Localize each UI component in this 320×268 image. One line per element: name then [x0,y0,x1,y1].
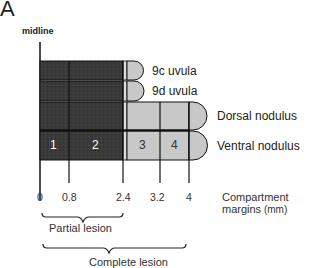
axis-title-unit: (mm) [264,204,287,215]
axis-title: Compartment margins (mm) [222,191,289,216]
tick-0.8: 0.8 [62,191,77,203]
axis-title-line1: Compartment [222,191,289,203]
complete-lesion-label: Complete lesion [89,256,168,268]
tick-4: 4 [186,191,192,203]
row-ventral-nodulus [40,131,208,160]
partial-lesion-brace [42,213,123,222]
axis-title-line2: margins [222,203,261,215]
row-label-9d-uvula: 9d uvula [152,84,197,98]
partial-lesion-label: Partial lesion [49,222,112,234]
row-label-dorsal-nodulus: Dorsal nodulus [217,109,297,123]
complete-lesion-brace [43,244,186,253]
tick-3.2: 3.2 [150,191,165,203]
compartment-1: 1 [50,138,57,152]
compartment-3: 3 [139,138,146,152]
compartment-4: 4 [171,138,178,152]
tick-2.4: 2.4 [116,191,131,203]
tick-0: 0 [37,191,43,203]
row-label-9c-uvula: 9c uvula [152,64,197,78]
row-9d-uvula [40,81,144,101]
compartment-2: 2 [92,138,99,152]
row-label-ventral-nodulus: Ventral nodulus [217,139,300,153]
row-9c-uvula [40,61,144,80]
